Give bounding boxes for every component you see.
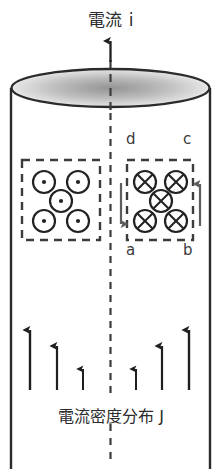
dot-symbol bbox=[67, 171, 89, 193]
cross-symbol bbox=[150, 190, 172, 212]
dot-symbol bbox=[33, 210, 55, 232]
into-page-current-region bbox=[127, 160, 193, 240]
cross-symbol bbox=[134, 171, 156, 193]
corner-label-a: a bbox=[126, 243, 135, 258]
cross-symbol bbox=[134, 210, 156, 232]
corner-label-d: d bbox=[126, 132, 136, 147]
physics-diagram: 電流 i bbox=[0, 0, 222, 469]
current-density-caption: 電流密度分布 J bbox=[0, 403, 222, 427]
cross-symbol bbox=[165, 210, 187, 232]
corner-label-b: b bbox=[183, 243, 193, 258]
dot-symbol bbox=[33, 171, 55, 193]
diagram-canvas bbox=[0, 0, 222, 469]
dot-symbol bbox=[67, 210, 89, 232]
out-of-page-current-region bbox=[22, 160, 100, 240]
corner-label-c: c bbox=[183, 132, 191, 147]
cross-symbol bbox=[165, 171, 187, 193]
dot-symbol bbox=[50, 190, 72, 212]
